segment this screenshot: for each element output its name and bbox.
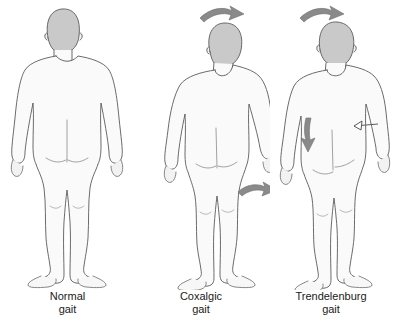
gait-illustration: Normal gait <box>0 0 394 322</box>
trunk-shift-arrow-top <box>300 6 344 22</box>
head-shape <box>47 9 79 53</box>
ear-right <box>80 33 82 40</box>
caption-trendelenburg-gait: Trendelenburg gait <box>268 290 394 316</box>
head-shape <box>209 23 242 67</box>
ear-right <box>354 45 356 52</box>
caption-line-2: gait <box>268 303 394 316</box>
torso-and-limbs <box>165 65 270 287</box>
caption-line-1: Coxalgic <box>180 290 222 302</box>
head-shape <box>319 22 353 66</box>
caption-normal-gait: Normal gait <box>0 290 135 316</box>
caption-line-2: gait <box>0 303 135 316</box>
caption-coxalgic-gait: Coxalgic gait <box>132 290 270 316</box>
ear-left <box>317 45 319 52</box>
trunk-shift-arrow-top <box>200 6 244 22</box>
trendelenburg-gait-figure <box>268 0 394 290</box>
panel-normal-gait: Normal gait <box>0 0 135 322</box>
torso-and-limbs <box>12 56 123 284</box>
panel-trendelenburg-gait: Trendelenburg gait <box>268 0 394 322</box>
ear-left <box>45 33 47 40</box>
caption-line-1: Normal <box>50 290 85 302</box>
coxalgic-gait-figure <box>132 0 270 290</box>
normal-gait-figure <box>0 0 135 290</box>
torso-and-limbs <box>281 65 390 289</box>
caption-line-1: Trendelenburg <box>295 290 366 302</box>
arm-shift-arrow-lower <box>238 182 270 196</box>
panel-coxalgic-gait: Coxalgic gait <box>132 0 270 322</box>
ear-left <box>207 47 209 54</box>
caption-line-2: gait <box>132 303 270 316</box>
